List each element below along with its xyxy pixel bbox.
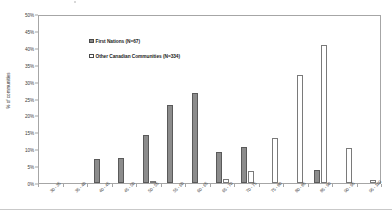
x-axis-tick-mark [259,184,260,187]
x-axis-tick-mark [210,184,211,187]
chart-legend: First Nations (N=67) Other Canadian Comm… [89,38,239,68]
legend-label-other-canadian-communities: Other Canadian Communities (N=334) [96,54,181,59]
bar-other-canadian-communities [297,75,303,183]
bar-group [358,16,383,183]
bar-first-nations [192,93,198,183]
bar-other-canadian-communities [321,45,327,183]
x-axis-tick-mark [308,184,309,187]
x-axis-tick-mark [161,184,162,187]
legend-item-first-nations: First Nations (N=67) [89,38,239,44]
x-axis-tick-mark [112,184,113,187]
x-axis-tick-mark [381,184,382,187]
y-axis-tick-label: 50% [25,13,34,18]
legend-label-first-nations: First Nations (N=67) [96,39,140,44]
y-axis-tick-label: 30% [25,80,34,85]
bar-group [309,16,334,183]
y-axis-tick-label: 5% [28,165,34,170]
page-bottom-rule [0,209,392,210]
y-axis-tick-label: 25% [25,97,34,102]
bar-other-canadian-communities [272,138,278,183]
bar-group [64,16,89,183]
y-axis-tick-label: 15% [25,131,34,136]
y-axis-tick-label: 35% [25,63,34,68]
bar-first-nations [216,152,222,183]
chart-figure: 0%5%10%15%20%25%30%35%40%45%50% % of com… [0,0,392,217]
x-axis-tick-mark [283,184,284,187]
y-axis-title: % of communities [6,55,11,127]
bar-group [260,16,285,183]
legend-swatch-other-canadian-communities [89,54,94,59]
bar-group [333,16,358,183]
x-axis: 30 - 3535 - 4040 - 4545 - 5050 - 5555 - … [38,184,381,217]
bar-first-nations [241,147,247,184]
plot-area: First Nations (N=67) Other Canadian Comm… [38,15,381,184]
x-axis-tick-mark [87,184,88,187]
x-axis-tick-mark [185,184,186,187]
x-axis-tick-mark [38,184,39,187]
bar-first-nations [314,170,320,183]
x-axis-tick-mark [332,184,333,187]
bar-group [39,16,64,183]
bar-first-nations [167,105,173,183]
page-speck [74,1,76,3]
bar-group [284,16,309,183]
y-axis-tick-label: 0% [28,182,34,187]
y-axis-tick-label: 20% [25,114,34,119]
legend-swatch-first-nations [89,39,94,44]
x-axis-tick-mark [136,184,137,187]
x-axis-tick-mark [63,184,64,187]
bar-first-nations [94,159,100,183]
x-axis-tick-mark [234,184,235,187]
legend-item-other-canadian-communities: Other Canadian Communities (N=334) [89,53,239,59]
bar-first-nations [118,158,124,183]
bar-first-nations [143,135,149,183]
y-axis-tick-label: 10% [25,148,34,153]
y-axis-tick-label: 45% [25,29,34,34]
x-axis-tick-mark [357,184,358,187]
bar-other-canadian-communities [346,148,352,183]
y-axis-tick-label: 40% [25,46,34,51]
